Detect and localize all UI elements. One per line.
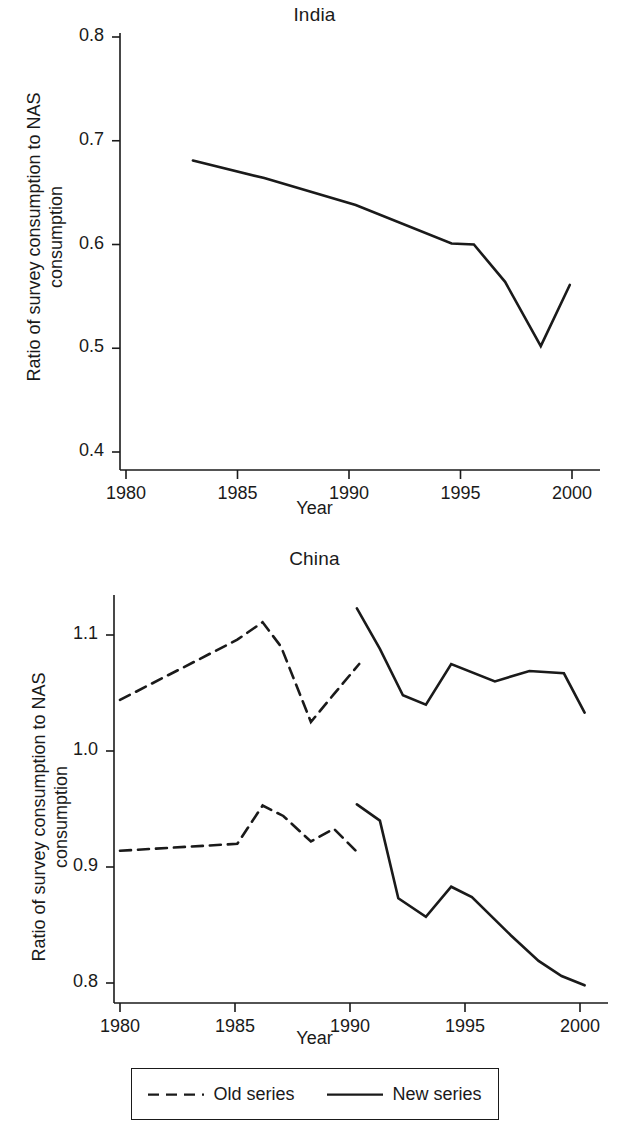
series-line-new-series-lower <box>357 804 585 985</box>
x-tick-label: 1990 <box>310 1016 390 1037</box>
x-tick-label: 1995 <box>425 1016 505 1037</box>
y-tick-label: 1.0 <box>46 739 98 760</box>
legend-label-old-series: Old series <box>213 1084 294 1105</box>
series-line-old-series-lower <box>120 806 359 855</box>
x-tick-label: 2000 <box>532 483 612 504</box>
dashed-line-swatch <box>148 1093 204 1096</box>
y-tick-label: 0.8 <box>52 25 104 46</box>
y-tick-label: 0.5 <box>52 336 104 357</box>
x-tick-label: 2000 <box>540 1016 620 1037</box>
series-line-new-series-upper <box>357 608 585 712</box>
x-tick-label: 1990 <box>309 483 389 504</box>
x-tick-label: 1995 <box>421 483 501 504</box>
x-tick-label: 1980 <box>80 1016 160 1037</box>
chart-legend: Old series New series <box>131 1068 499 1120</box>
y-tick-label: 0.6 <box>52 233 104 254</box>
legend-entry-old-series: Old series <box>148 1084 294 1105</box>
y-tick-label: 0.4 <box>52 440 104 461</box>
series-line-india-ratio <box>193 160 570 346</box>
legend-label-new-series: New series <box>392 1084 481 1105</box>
legend-entry-new-series: New series <box>327 1084 481 1105</box>
series-line-old-series-upper <box>120 622 359 722</box>
x-tick-label: 1985 <box>195 1016 275 1037</box>
x-tick-label: 1985 <box>198 483 278 504</box>
y-tick-label: 1.1 <box>46 623 98 644</box>
x-tick-label: 1980 <box>86 483 166 504</box>
china-chart-panel: China Ratio of survey consumption to NAS… <box>0 540 629 1141</box>
india-chart-panel: India Ratio of survey consumption to NAS… <box>0 0 629 540</box>
y-tick-label: 0.8 <box>46 971 98 992</box>
y-tick-label: 0.9 <box>46 855 98 876</box>
y-tick-label: 0.7 <box>52 129 104 150</box>
solid-line-swatch <box>327 1093 383 1096</box>
